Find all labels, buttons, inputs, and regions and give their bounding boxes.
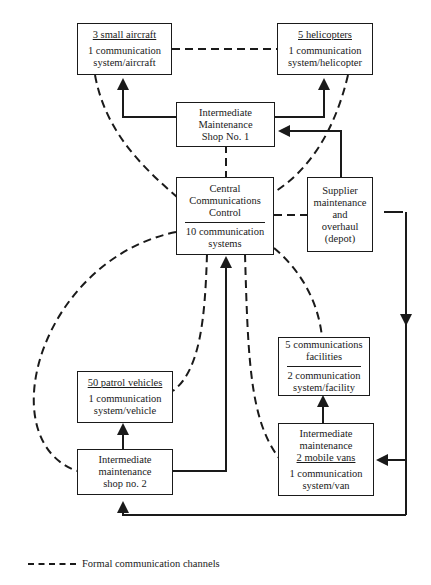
central-line1: Central xyxy=(177,183,273,195)
facilities-line1: 5 communications xyxy=(279,339,369,351)
patrol-title: 50 patrol vehicles xyxy=(78,377,172,389)
node-central-communications-control: Central Communications Control 10 commun… xyxy=(176,177,274,255)
patrol-line2: system/vehicle xyxy=(78,405,172,417)
aircraft-title: 3 small aircraft xyxy=(78,29,171,41)
dashed-central-ims2 xyxy=(34,232,176,471)
legend-dashed-line-icon xyxy=(28,563,76,565)
vans-line1: Intermediate xyxy=(279,428,373,440)
node-small-aircraft: 3 small aircraft 1 communication system/… xyxy=(77,23,172,75)
dashed-aircraft-central xyxy=(95,75,177,197)
facilities-line2: facilities xyxy=(279,351,369,363)
patrol-line1: 1 communication xyxy=(78,393,172,405)
ims2-line1: Intermediate xyxy=(78,454,172,466)
facilities-divider xyxy=(287,366,361,367)
vans-line4: 1 communication xyxy=(279,468,373,480)
connection-lines xyxy=(0,0,431,585)
helicopters-title: 5 helicopters xyxy=(278,29,372,41)
arrow-supplier-ims1 xyxy=(280,131,341,177)
vans-line5: system/van xyxy=(279,480,373,492)
supplier-line4: overhaul xyxy=(308,221,372,233)
dashed-central-facilities xyxy=(274,248,322,337)
dashed-central-patrol xyxy=(173,254,207,391)
aircraft-line2: system/aircraft xyxy=(78,57,171,69)
supplier-line2: maintenance xyxy=(308,197,372,209)
facilities-line3: 2 communication xyxy=(279,370,369,382)
vans-line3: 2 mobile vans xyxy=(279,452,373,464)
ims1-line3: Shop No. 1 xyxy=(177,131,274,143)
central-line4: 10 communication xyxy=(177,226,273,238)
ims2-line3: shop no. 2 xyxy=(78,478,172,490)
aircraft-line1: 1 communication xyxy=(78,45,171,57)
central-line3: Control xyxy=(177,207,273,219)
helicopters-line2: system/helicopter xyxy=(278,57,372,69)
node-mobile-vans: Intermediate maintenance 2 mobile vans 1… xyxy=(278,423,374,496)
node-patrol-vehicles: 50 patrol vehicles 1 communication syste… xyxy=(77,371,173,423)
supplier-line5: (depot) xyxy=(308,233,372,245)
ims1-line2: Maintenance xyxy=(177,119,274,131)
ims2-line2: maintenance xyxy=(78,466,172,478)
node-intermediate-shop-1: Intermediate Maintenance Shop No. 1 xyxy=(176,102,275,147)
facilities-line4: system/facility xyxy=(279,382,369,394)
dashed-helicopters-central xyxy=(273,75,348,193)
node-helicopters: 5 helicopters 1 communication system/hel… xyxy=(277,23,373,75)
central-line2: Communications xyxy=(177,195,273,207)
supplier-line3: and xyxy=(308,209,372,221)
node-supplier-depot: Supplier maintenance and overhaul (depot… xyxy=(307,177,373,252)
central-divider xyxy=(185,222,265,223)
legend: Formal communication channels xyxy=(28,558,220,569)
arrow-ims1-aircraft xyxy=(123,80,176,117)
dashed-central-vans xyxy=(245,254,279,458)
vans-line2: maintenance xyxy=(279,440,373,452)
helicopters-line1: 1 communication xyxy=(278,45,372,57)
node-intermediate-shop-2: Intermediate maintenance shop no. 2 xyxy=(77,449,173,495)
ims1-line1: Intermediate xyxy=(177,107,274,119)
supplier-line1: Supplier xyxy=(308,185,372,197)
arrow-ims1-helicopters xyxy=(275,80,324,117)
central-line5: systems xyxy=(177,238,273,250)
arrow-bottom-ims2 xyxy=(123,503,406,515)
node-communications-facilities: 5 communications facilities 2 communicat… xyxy=(278,337,370,396)
arrow-ims2-central xyxy=(172,258,226,471)
legend-label: Formal communication channels xyxy=(82,558,220,569)
